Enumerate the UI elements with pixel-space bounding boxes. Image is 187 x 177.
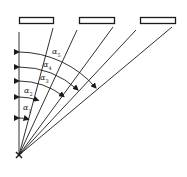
ray-4 [19,30,136,155]
label-alpha-4: α4 [43,61,52,71]
rays [19,27,172,155]
rectangles [20,18,176,24]
arc-a1 [19,118,29,119]
rectangle-1 [20,18,54,24]
arc-a2 [19,97,39,100]
alpha-subscript: 4 [48,65,51,71]
label-alpha-5: α5 [52,48,61,58]
angle-diagram: α1 α2 α3 α4 α5 [0,0,187,177]
rectangle-3 [141,18,176,24]
label-alpha-2: α2 [24,87,33,97]
label-alpha-3: α3 [40,74,49,84]
label-alpha-1: α1 [23,104,32,114]
alpha-subscript: 5 [57,52,60,58]
alpha-subscript: 2 [29,91,32,97]
rectangle-2 [80,18,115,24]
ray-5 [19,27,172,155]
alpha-subscript: 3 [45,78,48,84]
ray-3 [19,27,113,155]
alpha-subscript: 1 [28,108,31,114]
